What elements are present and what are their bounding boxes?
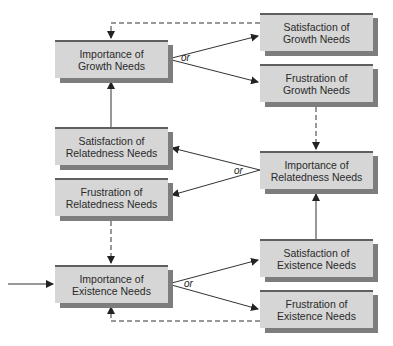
node-label-line2: Relatedness Needs (66, 147, 158, 160)
node-face: Importance of Existence Needs (55, 265, 168, 303)
node-label-line2: Growth Needs (283, 84, 350, 97)
node-label-line2: Existence Needs (72, 285, 151, 298)
node-frustration-growth: Frustration of Growth Needs (260, 64, 373, 102)
node-importance-existence: Importance of Existence Needs (55, 265, 168, 303)
node-face: Satisfaction of Relatedness Needs (55, 127, 168, 165)
node-label-line1: Frustration of (286, 298, 348, 311)
node-label-line2: Existence Needs (277, 259, 356, 272)
node-face: Frustration of Growth Needs (260, 64, 373, 102)
node-label-line1: Satisfaction of (284, 21, 350, 34)
node-frustration-existence: Frustration of Existence Needs (260, 290, 373, 328)
node-label-line1: Satisfaction of (79, 135, 145, 148)
node-label-line2: Growth Needs (78, 60, 145, 73)
node-satisfaction-existence: Satisfaction of Existence Needs (260, 239, 373, 277)
node-label-line2: Existence Needs (277, 310, 356, 323)
erg-diagram: Importance of Growth Needs Satisfaction … (0, 0, 393, 346)
node-face: Frustration of Relatedness Needs (55, 178, 168, 216)
node-satisfaction-growth: Satisfaction of Growth Needs (260, 13, 373, 51)
node-label-line1: Satisfaction of (284, 247, 350, 260)
node-face: Importance of Growth Needs (55, 40, 168, 78)
node-face: Satisfaction of Existence Needs (260, 239, 373, 277)
node-label-line2: Relatedness Needs (66, 198, 158, 211)
node-face: Frustration of Existence Needs (260, 290, 373, 328)
or-label-relatedness: or (234, 165, 243, 176)
node-label-line2: Relatedness Needs (271, 171, 363, 184)
or-label-existence: or (184, 278, 193, 289)
node-label-line1: Frustration of (81, 186, 143, 199)
node-importance-growth: Importance of Growth Needs (55, 40, 168, 78)
node-face: Satisfaction of Growth Needs (260, 13, 373, 51)
node-face: Importance of Relatedness Needs (260, 151, 373, 189)
node-satisfaction-relatedness: Satisfaction of Relatedness Needs (55, 127, 168, 165)
node-label-line1: Importance of (284, 159, 348, 172)
node-label-line1: Importance of (79, 273, 143, 286)
node-label-line1: Frustration of (286, 72, 348, 85)
node-frustration-relatedness: Frustration of Relatedness Needs (55, 178, 168, 216)
node-importance-relatedness: Importance of Relatedness Needs (260, 151, 373, 189)
node-label-line2: Growth Needs (283, 33, 350, 46)
node-label-line1: Importance of (79, 48, 143, 61)
or-label-growth: or (181, 52, 190, 63)
